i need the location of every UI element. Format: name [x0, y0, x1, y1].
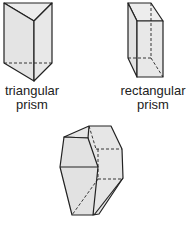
solid-figures-diagram [0, 0, 187, 227]
rectangular-prism-figure [128, 3, 163, 77]
triangular-prism-label: triangular prism [0, 84, 64, 111]
rectangular-prism-label: rectangular prism [118, 84, 187, 111]
triangular-prism-figure [4, 3, 52, 81]
hexagonal-prism-figure [60, 126, 123, 215]
triangular-prism-label-line2: prism [0, 98, 64, 111]
rectangular-prism-label-line1: rectangular [118, 84, 187, 97]
rectangular-prism-label-line2: prism [118, 98, 187, 111]
triangular-prism-label-line1: triangular [0, 84, 64, 97]
